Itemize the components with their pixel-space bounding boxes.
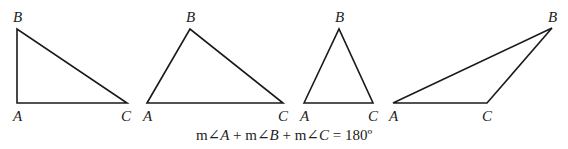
eq-angle-c: C bbox=[319, 127, 329, 143]
triangle-outline bbox=[304, 29, 373, 103]
eq-angle-b: B bbox=[270, 127, 279, 143]
eq-part: + m∠ bbox=[279, 127, 319, 143]
eq-angle-a: A bbox=[220, 127, 229, 143]
vertex-label-c: C bbox=[121, 108, 132, 124]
vertex-label-b: B bbox=[186, 9, 195, 25]
vertex-label-b: B bbox=[13, 9, 22, 25]
acute-scalene-triangle: ABC bbox=[142, 9, 289, 124]
isosceles-triangle: ABC bbox=[299, 9, 379, 124]
vertex-label-b: B bbox=[548, 9, 557, 25]
eq-part: + m∠ bbox=[229, 127, 269, 143]
triangle-outline bbox=[147, 29, 283, 103]
vertex-label-a: A bbox=[388, 108, 399, 124]
triangle-outline bbox=[393, 28, 552, 103]
angle-sum-equation: m∠A + m∠B + m∠C = 180º bbox=[0, 126, 568, 144]
vertex-label-c: C bbox=[482, 108, 493, 124]
obtuse-triangle: ABC bbox=[388, 9, 557, 124]
vertex-label-b: B bbox=[335, 9, 344, 25]
vertex-label-c: C bbox=[278, 108, 289, 124]
vertex-label-c: C bbox=[368, 108, 379, 124]
eq-part: m∠ bbox=[196, 127, 220, 143]
vertex-label-a: A bbox=[12, 108, 23, 124]
triangle-outline bbox=[17, 29, 127, 103]
eq-part: = 180º bbox=[329, 127, 372, 143]
vertex-label-a: A bbox=[299, 108, 310, 124]
vertex-label-a: A bbox=[142, 108, 153, 124]
right-triangle: ABC bbox=[12, 9, 132, 124]
